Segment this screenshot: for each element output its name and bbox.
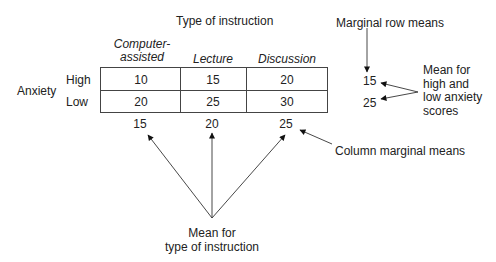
arrow-to-low-mean bbox=[381, 92, 418, 99]
arrows-layer bbox=[0, 0, 496, 262]
arrow-to-column-marginal bbox=[300, 130, 332, 144]
arrow-to-high-mean bbox=[381, 83, 418, 92]
arrow-to-computer-mean bbox=[148, 135, 212, 218]
arrow-to-discussion-mean bbox=[212, 135, 285, 218]
